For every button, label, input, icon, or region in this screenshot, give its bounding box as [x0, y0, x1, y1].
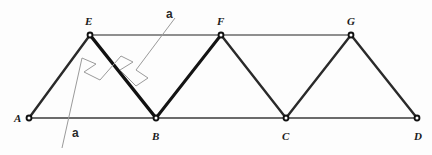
truss-node-d: [414, 115, 421, 122]
truss-diagram-svg: [0, 0, 432, 155]
node-marker-inner: [220, 34, 223, 37]
truss-member-cg: [286, 35, 351, 118]
section-label-lower: a: [72, 127, 79, 139]
truss-member-ae: [29, 35, 90, 118]
truss-member-fc: [221, 35, 286, 118]
node-label-a: A: [14, 113, 21, 124]
section-label-upper: a: [166, 8, 173, 20]
node-marker-inner: [350, 34, 353, 37]
truss-node-a: [26, 115, 33, 122]
node-marker-inner: [285, 117, 288, 120]
truss-nodes-group: [26, 32, 421, 122]
truss-figure: ABCDEFG a a: [0, 0, 432, 155]
truss-node-c: [283, 115, 290, 122]
node-label-c: C: [282, 131, 289, 142]
node-label-f: F: [217, 16, 224, 27]
truss-member-bf: [156, 35, 221, 118]
node-marker-inner: [416, 117, 419, 120]
truss-node-g: [348, 32, 355, 39]
node-marker-inner: [155, 117, 158, 120]
truss-node-b: [153, 115, 160, 122]
node-marker-inner: [89, 34, 92, 37]
truss-member-gd: [351, 35, 417, 118]
node-marker-inner: [28, 117, 31, 120]
truss-node-e: [87, 32, 94, 39]
node-label-e: E: [85, 16, 92, 27]
node-label-g: G: [347, 16, 355, 27]
truss-node-f: [218, 32, 225, 39]
truss-members-group: [29, 35, 417, 118]
node-label-b: B: [152, 131, 159, 142]
node-label-d: D: [414, 131, 422, 142]
